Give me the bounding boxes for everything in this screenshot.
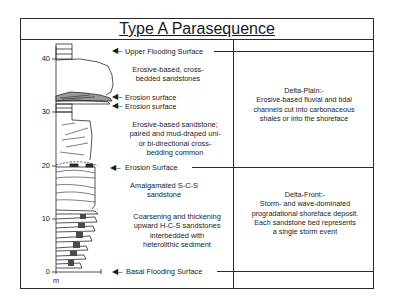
arrow-left-icon: ◀–: [112, 46, 122, 55]
desc-cross-bedded: Erosive-based, cross- bedded sandstones: [118, 65, 218, 84]
tick-20: 20: [36, 162, 50, 170]
tick-40: 40: [36, 55, 50, 63]
env-delta-plain: Delta-Plain:- Erosive-based fluvial and …: [236, 86, 372, 123]
desc-coarsening: Coarsening and thickening upward H-C-S s…: [118, 212, 236, 250]
erosion-surface-label-2: Erosion surface: [125, 102, 176, 111]
tick-30: 30: [36, 108, 50, 116]
arrow-left-icon: ◀–: [112, 101, 122, 110]
arrow-left-icon: ◀–: [112, 92, 122, 101]
tick-0: 0: [36, 268, 50, 276]
axis-unit: m: [53, 276, 59, 285]
basal-flooding-surface-label: Basal Flooding Surface: [126, 267, 202, 276]
desc-erosive-sandstone: Erosive-based sandstone; paired and mud-…: [118, 120, 232, 158]
arrow-left-icon: ◀–: [110, 163, 120, 172]
desc-amalgamated: Amalgamated S-C-S sandstone: [118, 181, 210, 200]
env-delta-front: Delta-Front:- Storm- and wave-dominated …: [236, 190, 374, 236]
erosion-surface-main-label: Erosion Surface: [125, 163, 178, 172]
upper-flooding-surface-label: Upper Flooding Surface: [125, 47, 203, 56]
tick-10: 10: [36, 215, 50, 223]
arrow-left-icon: ◀–: [112, 267, 122, 276]
erosion-surface-label-1: Erosion surface: [125, 93, 176, 102]
